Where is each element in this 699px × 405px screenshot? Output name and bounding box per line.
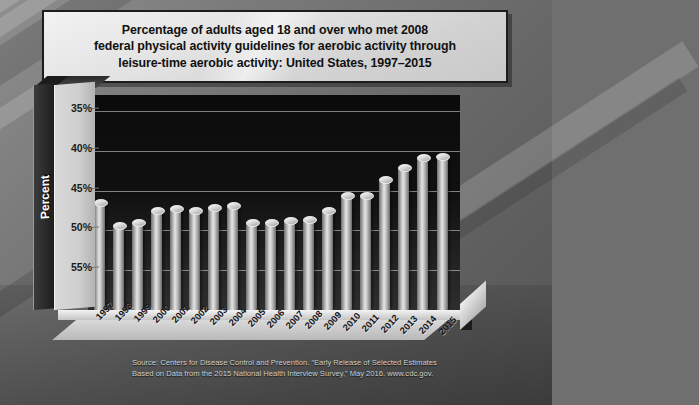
bar-1998 — [113, 225, 124, 310]
bar-shadow — [351, 192, 356, 310]
x-axis-labels: 1997199819992000200120022003200420052006… — [86, 309, 476, 349]
bar-top-cap — [113, 222, 127, 230]
bar-2015 — [437, 156, 448, 310]
bar-body — [398, 167, 409, 310]
title-line-1: Percentage of adults aged 18 and over wh… — [94, 22, 456, 38]
bar-2014 — [417, 157, 428, 310]
bar-top-cap — [189, 207, 203, 215]
x-axis-tick-label: 2004 — [227, 306, 248, 328]
bar-body — [379, 179, 390, 310]
bar-2013 — [398, 167, 409, 310]
bar-body — [360, 195, 371, 310]
bar-body — [341, 195, 352, 310]
bar-body — [170, 208, 181, 310]
bar-2006 — [265, 222, 276, 310]
bar-top-cap — [284, 217, 298, 225]
bar-body — [227, 205, 238, 310]
y-axis-wall: 55%50%45%40%35% — [54, 82, 95, 310]
bar-top-cap — [170, 205, 184, 213]
x-axis-tick-label: 2010 — [341, 311, 362, 333]
bar-chart: Percent 55%50%45%40%35% 1997199819992000… — [30, 78, 480, 343]
bar-top-cap — [151, 207, 165, 215]
bar-2010 — [341, 195, 352, 310]
y-axis-tick-label: 35% — [71, 102, 92, 114]
bar-2012 — [379, 179, 390, 310]
gridline — [88, 151, 460, 152]
x-axis-tick-label: 2009 — [322, 310, 343, 332]
bar-top-cap — [94, 199, 108, 207]
bar-shadow — [408, 165, 413, 310]
bar-1997 — [94, 202, 105, 310]
bar-body — [208, 207, 219, 310]
bar-2002 — [189, 210, 200, 310]
bar-2001 — [170, 208, 181, 310]
page-title: Percentage of adults aged 18 and over wh… — [86, 22, 464, 71]
bar-shadow — [370, 192, 375, 310]
bar-body — [94, 202, 105, 310]
bar-2000 — [151, 210, 162, 310]
bar-body — [437, 156, 448, 310]
bar-shadow — [313, 216, 318, 310]
x-axis-tick-label: 2005 — [246, 307, 267, 329]
x-axis-tick-label: 2006 — [265, 308, 286, 330]
y-axis-tick-label: 55% — [71, 261, 92, 273]
bar-body — [246, 222, 257, 310]
bar-body — [151, 210, 162, 310]
y-axis-tick-label: 50% — [71, 221, 92, 233]
y-axis-tick-label: 40% — [71, 142, 92, 154]
bar-2011 — [360, 195, 371, 310]
bar-body — [265, 222, 276, 310]
bar-body — [113, 225, 124, 310]
x-axis-tick-label: 2007 — [284, 308, 305, 330]
bar-top-cap — [132, 219, 146, 227]
bar-shadow — [389, 176, 394, 310]
bar-2005 — [246, 222, 257, 310]
bar-body — [303, 219, 314, 310]
title-line-2: federal physical activity guidelines for… — [94, 38, 456, 54]
plot-area — [88, 95, 460, 310]
x-axis-tick-label: 2012 — [379, 313, 400, 335]
bar-top-cap — [379, 176, 393, 184]
source-line-1: Source: Centers for Disease Control and … — [132, 357, 462, 368]
bar-body — [284, 220, 295, 310]
bar-body — [132, 222, 143, 310]
bar-2008 — [303, 219, 314, 310]
bar-shadow — [427, 154, 432, 310]
bar-top-cap — [227, 202, 241, 210]
x-axis-tick-label: 2014 — [417, 314, 438, 336]
source-note: Source: Centers for Disease Control and … — [132, 357, 462, 379]
bar-1999 — [132, 222, 143, 310]
bar-shadow — [294, 217, 299, 310]
bar-top-cap — [341, 192, 355, 200]
bar-top-cap — [360, 192, 374, 200]
bar-2009 — [322, 210, 333, 310]
bar-shadow — [332, 208, 337, 310]
x-axis-tick-label: 2011 — [360, 312, 381, 334]
x-axis-tick-label: 2003 — [208, 305, 229, 327]
x-axis-tick-label: 2013 — [398, 313, 419, 335]
bar-body — [417, 157, 428, 310]
x-axis-tick-label: 2008 — [303, 309, 324, 331]
title-line-3: leisure-time aerobic activity: United St… — [94, 55, 456, 71]
x-axis-tick-label: 2015 — [437, 315, 458, 337]
bar-2003 — [208, 207, 219, 310]
bar-2004 — [227, 205, 238, 310]
bar-2007 — [284, 220, 295, 310]
bar-body — [189, 210, 200, 310]
y-axis-tick-label: 45% — [71, 181, 92, 193]
bar-body — [322, 210, 333, 310]
y-axis-spine: Percent — [33, 83, 56, 310]
gridline — [88, 111, 460, 112]
y-axis-label: Percent — [38, 174, 52, 219]
source-line-2: Based on Data from the 2015 National Hea… — [132, 368, 462, 379]
chart-title-plate: Percentage of adults aged 18 and over wh… — [42, 10, 508, 83]
